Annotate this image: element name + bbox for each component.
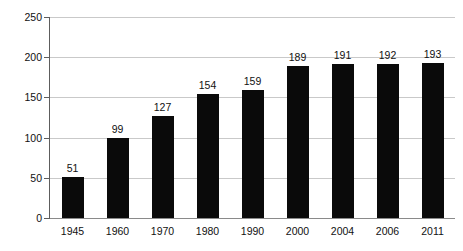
bar	[422, 63, 444, 218]
bar-value-label: 154	[185, 79, 231, 91]
y-axis-tick-label: 0	[0, 212, 42, 224]
gridline	[50, 17, 455, 18]
y-axis-tick-label: 250	[0, 11, 42, 23]
bar	[377, 64, 399, 218]
bar-value-label: 51	[50, 162, 96, 174]
y-axis-tick-label: 200	[0, 51, 42, 63]
bar-chart: Number of Member States 050100150200250 …	[0, 0, 463, 251]
y-axis-tick	[44, 218, 50, 219]
bar	[197, 94, 219, 218]
bar-value-label: 192	[365, 49, 411, 61]
bar	[242, 90, 264, 218]
y-axis-tick-label: 150	[0, 91, 42, 103]
x-axis-line	[50, 218, 455, 219]
bar	[107, 138, 129, 218]
bar-value-label: 127	[140, 101, 186, 113]
y-axis-tick-label: 50	[0, 172, 42, 184]
bar-value-label: 159	[230, 75, 276, 87]
bar	[62, 177, 84, 218]
plot-area	[50, 17, 455, 218]
bar	[287, 66, 309, 218]
bar-value-label: 193	[410, 48, 456, 60]
x-axis-tick-label: 2011	[407, 225, 459, 237]
bar-value-label: 191	[320, 49, 366, 61]
bar-value-label: 99	[95, 123, 141, 135]
y-axis-tick-labels: 050100150200250	[0, 0, 42, 251]
bar-value-label: 189	[275, 51, 321, 63]
y-axis-tick-label: 100	[0, 132, 42, 144]
bar	[332, 64, 354, 218]
bar	[152, 116, 174, 218]
